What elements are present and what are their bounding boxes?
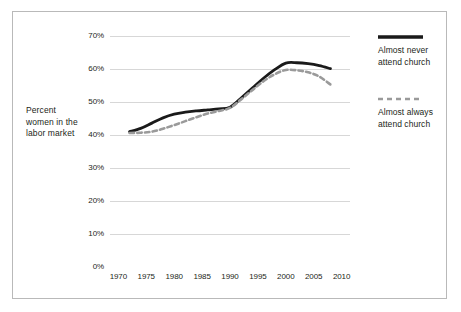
series-line xyxy=(130,62,331,131)
legend-solid-line-icon xyxy=(378,32,423,42)
legend-item: Almost neverattend church xyxy=(378,32,450,68)
y-tick-label: 30% xyxy=(78,163,104,172)
legend: Almost neverattend churchAlmost alwaysat… xyxy=(378,32,450,130)
y-tick-label: 60% xyxy=(78,64,104,73)
plot-area xyxy=(110,36,350,267)
y-tick-label: 40% xyxy=(78,130,104,139)
data-series xyxy=(130,62,331,133)
gridlines xyxy=(110,36,350,267)
legend-item: Almost alwaysattend church xyxy=(378,94,450,130)
legend-label: Almost alwaysattend church xyxy=(378,107,450,130)
x-tick-label: 2010 xyxy=(325,272,359,281)
chart-figure: Percent women in the labor market 0%10%2… xyxy=(0,0,461,312)
y-axis-title: Percent women in the labor market xyxy=(26,105,84,140)
y-tick-label: 20% xyxy=(78,196,104,205)
y-tick-label: 0% xyxy=(78,262,104,271)
series-line xyxy=(130,70,331,133)
y-tick-label: 50% xyxy=(78,97,104,106)
legend-dashed-line-icon xyxy=(378,94,423,104)
y-tick-label: 10% xyxy=(78,229,104,238)
y-tick-label: 70% xyxy=(78,31,104,40)
legend-label: Almost neverattend church xyxy=(378,45,450,68)
plot-svg xyxy=(110,36,350,267)
